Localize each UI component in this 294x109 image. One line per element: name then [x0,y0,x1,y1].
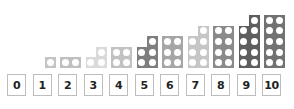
column-2: 2 [58,0,84,96]
tile-cell [188,36,199,47]
tile-row [213,57,234,68]
tile-cell [224,47,235,58]
tile-row [111,57,132,68]
column-10: 10 [262,0,288,96]
column-7: 7 [186,0,212,96]
tile-cell [224,57,235,68]
column-1: 1 [33,0,59,96]
column-8: 8 [211,0,237,96]
tile-row [137,36,158,47]
tile-cell [239,57,250,68]
tile-cell [111,57,122,68]
tile-row [213,47,234,58]
tile-row [35,57,56,68]
tile-cell [111,47,122,58]
number-label: 10 [262,74,281,96]
tile-stack [188,26,209,68]
tile-row [264,36,285,47]
tile-row [162,36,183,47]
tile-cell [275,57,286,68]
tile-cell [137,57,148,68]
tile-cell [198,26,209,37]
tile-cell [137,47,148,58]
tile-row [188,57,209,68]
tile-cell [213,36,224,47]
tile-cell [198,36,209,47]
tile-cell [264,36,275,47]
tile-row [137,47,158,58]
tile-cell [224,26,235,37]
tile-stack [239,15,260,68]
number-label: 3 [84,74,103,96]
tile-cell [213,26,224,37]
tile-cell [162,47,173,58]
tile-cell [264,26,275,37]
tile-cell [122,47,133,58]
tile-stack [213,26,234,68]
column-4: 4 [109,0,135,96]
tile-cell [239,26,250,37]
tile-row [60,57,81,68]
tile-cell [249,57,260,68]
tile-row [264,47,285,58]
tile-row [86,57,107,68]
tile-stack [60,57,81,68]
number-label: 7 [186,74,205,96]
tile-cell [86,57,97,68]
tile-cell [45,57,56,68]
number-label: 6 [160,74,179,96]
tile-row [239,15,260,26]
tile-cell [60,57,71,68]
tile-stack [264,15,285,68]
tile-row [239,26,260,37]
tile-cell [162,36,173,47]
tile-stack [137,36,158,68]
tile-cell [275,26,286,37]
tile-cell [147,36,158,47]
tile-cell [224,36,235,47]
tile-cell [147,57,158,68]
tile-cell [188,47,199,58]
tile-cell [173,36,184,47]
tile-row [239,36,260,47]
tile-cell [173,47,184,58]
tile-cell [275,36,286,47]
tile-row [264,26,285,37]
number-tiles-diagram: 0 1 2 3 4 5 6 7 8 9 10 [0,0,294,109]
tile-cell [239,47,250,58]
tile-cell [264,57,275,68]
tile-cell [96,57,107,68]
tile-cell [173,57,184,68]
tile-cell [162,57,173,68]
tile-cell [275,15,286,26]
tile-cell [198,47,209,58]
tile-cell [249,47,260,58]
tile-stack [111,47,132,68]
column-6: 6 [160,0,186,96]
number-label: 0 [7,74,26,96]
tile-cell [275,47,286,58]
tile-cell [249,26,260,37]
tile-cell [96,47,107,58]
number-label: 8 [211,74,230,96]
tile-row [188,26,209,37]
tile-cell [249,36,260,47]
tile-cell [188,57,199,68]
number-label: 2 [58,74,77,96]
tile-row [86,47,107,58]
tile-cell [239,36,250,47]
tile-row [239,57,260,68]
column-3: 3 [84,0,110,96]
tile-cell [264,47,275,58]
number-label: 1 [33,74,52,96]
number-label: 5 [135,74,154,96]
tile-row [137,57,158,68]
tile-cell [213,47,224,58]
tile-row [188,47,209,58]
number-label: 9 [237,74,256,96]
tile-stack [86,47,107,68]
tile-row [111,47,132,58]
tile-cell [249,15,260,26]
tile-cell [71,57,82,68]
tile-cell [147,47,158,58]
